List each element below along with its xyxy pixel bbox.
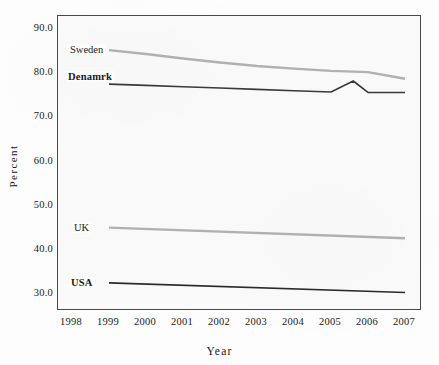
clipped-title-text (150, 0, 350, 5)
y-axis-tick-label: 90.0 (7, 22, 53, 33)
chart-page: 30.040.050.060.070.080.090.0 Percent Swe… (0, 0, 439, 365)
series-line-uk (109, 228, 405, 239)
series-label-uk: UK (72, 222, 91, 233)
series-lines (58, 16, 420, 309)
y-axis-tick-label: 40.0 (7, 242, 53, 253)
y-axis-tick-label: 80.0 (7, 66, 53, 77)
series-label-sweden: Sweden (68, 44, 105, 55)
plot-inner (58, 16, 420, 309)
plot-area (57, 15, 421, 310)
x-axis-title: Year (0, 345, 439, 357)
x-axis-tick-group: 1998199920002001200220032004200520062007 (0, 316, 439, 332)
y-axis-tick-label: 30.0 (7, 287, 53, 298)
series-line-sweden (109, 50, 405, 79)
series-line-denamrk (109, 81, 405, 92)
series-label-denamrk: Denamrk (66, 71, 114, 82)
x-axis-tick-label: 2007 (382, 316, 426, 327)
y-axis-tick-label: 70.0 (7, 110, 53, 121)
series-label-usa: USA (69, 277, 95, 288)
series-line-usa (109, 283, 405, 293)
y-axis-title: Percent (7, 131, 19, 201)
